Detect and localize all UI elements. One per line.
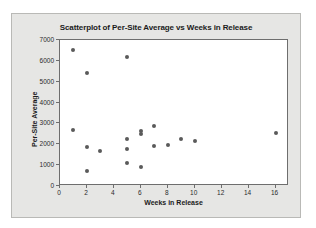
figure-panel: Scatterplot of Per-Site Average vs Weeks… <box>11 13 301 218</box>
x-tick-mark <box>59 185 60 188</box>
x-tick-mark <box>86 185 87 188</box>
y-tick-label: 5000 <box>28 77 54 84</box>
y-tick-label: 6000 <box>28 56 54 63</box>
data-point <box>152 144 156 148</box>
data-point <box>85 71 89 75</box>
data-point <box>71 128 75 132</box>
x-tick-label: 0 <box>57 189 61 196</box>
x-tick-mark <box>194 185 195 188</box>
data-points-layer <box>60 40 287 184</box>
x-tick-mark <box>113 185 114 188</box>
data-point <box>85 145 89 149</box>
y-tick-label: 7000 <box>28 36 54 43</box>
x-tick-mark <box>275 185 276 188</box>
x-tick-mark <box>221 185 222 188</box>
data-point <box>85 169 89 173</box>
data-point <box>71 48 75 52</box>
data-point <box>193 139 197 143</box>
x-tick-label: 14 <box>244 189 251 196</box>
x-tick-mark <box>140 185 141 188</box>
x-tick-label: 12 <box>217 189 224 196</box>
data-point <box>166 143 170 147</box>
x-tick-label: 16 <box>271 189 278 196</box>
data-point <box>125 161 129 165</box>
data-point <box>179 137 183 141</box>
x-tick-mark <box>167 185 168 188</box>
y-tick-label: 2000 <box>28 140 54 147</box>
x-tick-mark <box>248 185 249 188</box>
data-point <box>139 165 143 169</box>
y-tick-label: 1000 <box>28 161 54 168</box>
chart-title: Scatterplot of Per-Site Average vs Weeks… <box>12 23 300 32</box>
x-tick-label: 8 <box>165 189 169 196</box>
data-point <box>125 137 129 141</box>
y-tick-label: 4000 <box>28 98 54 105</box>
data-point <box>139 132 143 136</box>
data-point <box>125 55 129 59</box>
data-point <box>125 147 129 151</box>
x-tick-label: 2 <box>84 189 88 196</box>
data-point <box>274 131 278 135</box>
y-tick-label: 3000 <box>28 119 54 126</box>
x-tick-label: 6 <box>138 189 142 196</box>
x-tick-label: 10 <box>190 189 197 196</box>
data-point <box>98 149 102 153</box>
x-tick-label: 4 <box>111 189 115 196</box>
plot-area <box>59 39 288 185</box>
scatterplot-figure-page: Scatterplot of Per-Site Average vs Weeks… <box>0 0 316 228</box>
x-axis-title: Weeks in Release <box>59 199 288 206</box>
data-point <box>152 124 156 128</box>
y-tick-label: 0 <box>28 182 54 189</box>
